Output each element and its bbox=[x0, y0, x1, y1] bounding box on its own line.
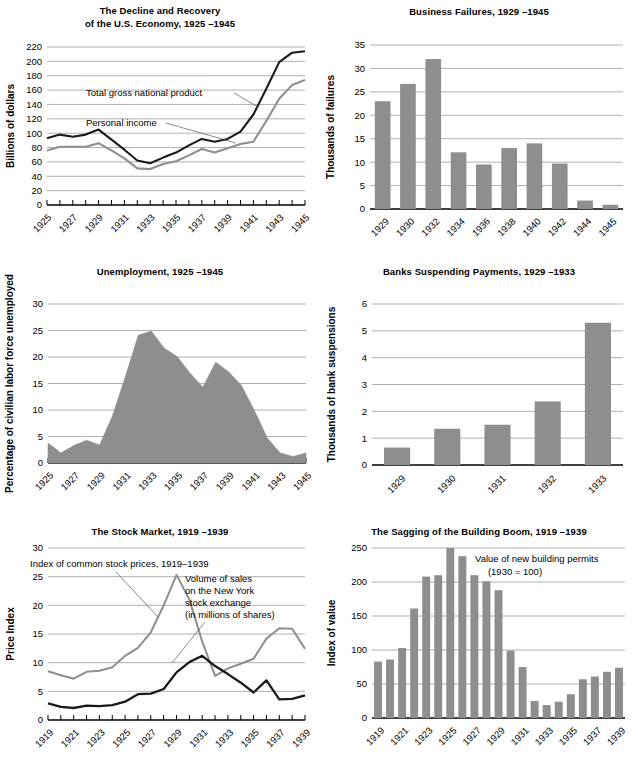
x-axis-tick-label: 1919 bbox=[364, 725, 387, 748]
bar bbox=[446, 548, 454, 718]
x-axis-tick-label: 1932 bbox=[535, 473, 558, 496]
y-axis-tick-label: 80 bbox=[31, 142, 42, 153]
chart-panel-building: The Sagging of the Building Boom, 1919 –… bbox=[320, 520, 638, 775]
x-axis-tick-label: 1941 bbox=[237, 212, 260, 235]
y-axis-tick-label: 0 bbox=[360, 203, 365, 214]
x-axis-tick-label: 1936 bbox=[470, 216, 493, 239]
bar bbox=[603, 205, 619, 209]
x-axis-tick-label: 1935 bbox=[238, 727, 261, 750]
y-axis-tick-label: 1 bbox=[362, 433, 367, 444]
bar bbox=[434, 429, 460, 465]
x-axis-tick-label: 1927 bbox=[135, 727, 158, 750]
chart-annotation: Value of new building permits bbox=[475, 553, 599, 564]
x-axis-tick-label: 1931 bbox=[110, 470, 133, 493]
x-axis-tick-label: 1925 bbox=[110, 727, 133, 750]
bar bbox=[422, 577, 430, 718]
x-axis-tick-label: 1940 bbox=[520, 216, 543, 239]
series-line-sales-volume bbox=[48, 656, 305, 708]
y-axis-tick-label: 15 bbox=[32, 378, 43, 389]
x-axis-tick-label: 1931 bbox=[485, 473, 508, 496]
y-axis-tick-label: 30 bbox=[32, 298, 43, 309]
x-axis-tick-label: 1927 bbox=[58, 470, 81, 493]
x-axis-tick-label: 1932 bbox=[419, 216, 442, 239]
bar bbox=[555, 702, 563, 718]
y-axis-tick-label: 50 bbox=[356, 678, 367, 689]
y-axis-tick-label: 220 bbox=[26, 41, 42, 52]
x-axis-tick-label: 1943 bbox=[265, 470, 288, 493]
bar bbox=[386, 660, 394, 718]
y-axis-tick-label: 160 bbox=[26, 84, 42, 95]
y-axis-tick-label: 5 bbox=[362, 325, 367, 336]
y-axis-tick-label: 10 bbox=[32, 657, 43, 668]
bar bbox=[434, 575, 442, 718]
chart-plot-gnp: 0204060801001201401601802002201925192719… bbox=[0, 0, 320, 260]
y-axis-tick-label: 150 bbox=[351, 610, 367, 621]
y-axis-title: Thousands of bank suspensions bbox=[326, 306, 337, 462]
x-axis-tick-label: 1942 bbox=[545, 216, 568, 239]
chart-panel-gnp: The Decline and Recovery of the U.S. Eco… bbox=[0, 0, 320, 260]
x-axis-tick-label: 1945 bbox=[291, 470, 314, 493]
x-axis-tick-label: 1927 bbox=[56, 212, 79, 235]
y-axis-tick-label: 0 bbox=[362, 459, 367, 470]
y-axis-tick-label: 0 bbox=[37, 199, 42, 210]
bar bbox=[603, 672, 611, 718]
bar bbox=[451, 152, 467, 209]
y-axis-title: Thousands of failures bbox=[325, 75, 336, 179]
y-axis-tick-label: 40 bbox=[31, 171, 42, 182]
x-axis-tick-label: 1935 bbox=[162, 470, 185, 493]
x-axis-tick-label: 1929 bbox=[161, 727, 184, 750]
bar bbox=[484, 425, 510, 465]
y-axis-title: Index of value bbox=[326, 599, 337, 666]
x-axis-tick-label: 1919 bbox=[33, 727, 56, 750]
y-axis-tick-label: 5 bbox=[38, 686, 43, 697]
chart-plot-stocks: 0510152025301919192119231925192719291931… bbox=[0, 520, 320, 775]
x-axis-tick-label: 1921 bbox=[58, 727, 81, 750]
y-axis-tick-label: 20 bbox=[32, 351, 43, 362]
x-axis-tick-label: 1929 bbox=[84, 470, 107, 493]
x-axis-tick-label: 1933 bbox=[213, 727, 236, 750]
y-axis-tick-label: 120 bbox=[26, 113, 42, 124]
x-axis-tick-label: 1933 bbox=[136, 470, 159, 493]
y-axis-tick-label: 30 bbox=[354, 63, 365, 74]
y-axis-tick-label: 100 bbox=[351, 644, 367, 655]
bar bbox=[384, 448, 410, 465]
bar bbox=[374, 662, 382, 718]
y-axis-tick-label: 140 bbox=[26, 99, 42, 110]
y-axis-tick-label: 25 bbox=[354, 86, 365, 97]
chart-annotation: Volume of sales bbox=[185, 573, 252, 584]
bar bbox=[585, 323, 611, 465]
x-axis-tick-label: 1939 bbox=[213, 470, 236, 493]
x-axis-tick-label: 1923 bbox=[412, 725, 435, 748]
chart-annotation: Total gross national product bbox=[86, 87, 203, 98]
x-axis-tick-label: 1935 bbox=[556, 725, 579, 748]
chart-panel-stocks: The Stock Market, 1919 –1939 05101520253… bbox=[0, 520, 320, 775]
bar bbox=[535, 401, 561, 465]
y-axis-tick-label: 5 bbox=[360, 180, 365, 191]
y-axis-tick-label: 20 bbox=[354, 110, 365, 121]
bar bbox=[425, 59, 441, 209]
y-axis-tick-label: 4 bbox=[362, 352, 367, 363]
y-axis-tick-label: 20 bbox=[32, 600, 43, 611]
bar bbox=[482, 581, 490, 718]
x-axis-tick-label: 1929 bbox=[484, 725, 507, 748]
bar bbox=[495, 590, 503, 718]
annotation-leader-line bbox=[116, 572, 158, 617]
y-axis-tick-label: 0 bbox=[38, 714, 43, 725]
x-axis-tick-label: 1944 bbox=[571, 216, 594, 239]
bar bbox=[375, 101, 391, 209]
area-series-unemployment bbox=[48, 331, 306, 463]
chart-plot-failures: 0510152025303519291930193219341936193819… bbox=[320, 0, 638, 260]
bar bbox=[519, 667, 527, 718]
x-axis-tick-label: 1933 bbox=[586, 473, 609, 496]
y-axis-tick-label: 25 bbox=[32, 325, 43, 336]
x-axis-tick-label: 1923 bbox=[84, 727, 107, 750]
y-axis-tick-label: 6 bbox=[362, 298, 367, 309]
x-axis-tick-label: 1938 bbox=[495, 216, 518, 239]
x-axis-tick-label: 1931 bbox=[108, 212, 131, 235]
chart-annotation: Index of common stock prices, 1919–1939 bbox=[30, 558, 209, 569]
chart-plot-unemployment: 0510152025301925192719291931193319351937… bbox=[0, 260, 320, 520]
x-axis-tick-label: 1943 bbox=[263, 212, 286, 235]
y-axis-tick-label: 0 bbox=[38, 457, 43, 468]
y-axis-tick-label: 250 bbox=[351, 542, 367, 553]
x-axis-tick-label: 1935 bbox=[160, 212, 183, 235]
